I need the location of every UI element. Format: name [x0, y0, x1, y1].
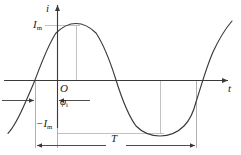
negative-amplitude-label: −Im [36, 118, 52, 130]
period-label: T [111, 133, 117, 144]
guide-lines [45, 26, 164, 134]
phase-subscript: i [66, 101, 68, 108]
negative-amplitude-subscript: m [47, 123, 52, 130]
negative-amplitude-symbol: −I [36, 117, 47, 129]
positive-amplitude-label: Im [33, 19, 42, 31]
origin-label: O [60, 83, 68, 94]
vertical-axis-label: i [46, 3, 49, 14]
waveform-figure: i Im O φi −Im T t [0, 0, 241, 155]
horizontal-axis-label: t [228, 83, 231, 94]
positive-amplitude-subscript: m [37, 24, 42, 31]
phase-label: φi [60, 96, 68, 108]
